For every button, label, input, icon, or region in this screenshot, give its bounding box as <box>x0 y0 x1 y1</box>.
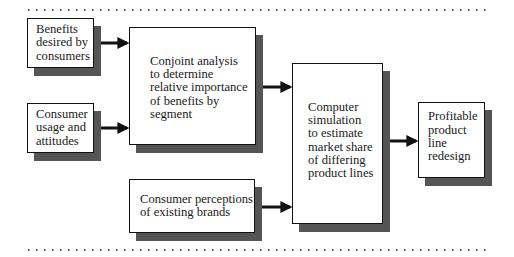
node-text: desired by <box>36 36 93 49</box>
node-text: usage and <box>36 121 93 134</box>
node-text: product <box>428 124 484 137</box>
node-text: to estimate <box>308 127 382 140</box>
node-conjoint-analysis: Conjoint analysis to determine relative … <box>129 27 256 145</box>
node-text: segment <box>150 108 255 121</box>
node-text: of benefits by <box>150 95 255 108</box>
node-text: Benefits <box>36 23 93 36</box>
node-text: simulation <box>308 114 382 127</box>
node-text: to determine <box>150 68 255 81</box>
node-text: market share <box>308 141 382 154</box>
node-computer-simulation: Computer simulation to estimate market s… <box>292 63 383 224</box>
node-text: redesign <box>428 150 484 163</box>
node-profitable-redesign: Profitable product line redesign <box>418 102 485 178</box>
node-text: Consumer perceptions <box>140 193 254 206</box>
node-text: product lines <box>308 167 382 180</box>
node-text: relative importance <box>150 81 255 94</box>
node-text: Conjoint analysis <box>150 55 255 68</box>
node-text: Profitable <box>428 110 484 123</box>
node-text: line <box>428 137 484 150</box>
node-text: attitudes <box>36 135 93 148</box>
node-benefits-desired: Benefits desired by consumers <box>27 18 94 68</box>
node-text: of differing <box>308 154 382 167</box>
node-consumer-perceptions: Consumer perceptions of existing brands <box>129 179 255 233</box>
node-text: of existing brands <box>140 206 254 219</box>
node-consumer-usage: Consumer usage and attitudes <box>27 103 94 153</box>
node-text: consumers <box>36 50 93 63</box>
node-text: Consumer <box>36 108 93 121</box>
node-text: Computer <box>308 101 382 114</box>
